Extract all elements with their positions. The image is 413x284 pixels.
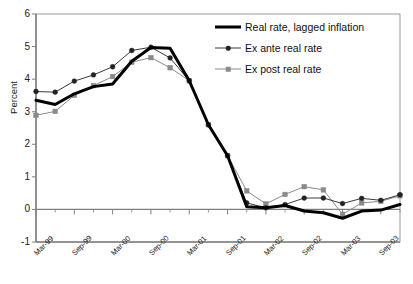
data-point-marker: [110, 74, 115, 79]
data-point-marker: [149, 55, 154, 60]
data-point-marker: [321, 196, 326, 201]
diamond-marker-icon: [226, 46, 231, 51]
data-point-marker: [398, 192, 403, 197]
legend-item-ex-ante[interactable]: Ex ante real rate: [213, 39, 409, 57]
y-axis-tick-label: 3: [6, 107, 30, 117]
legend-label-real-rate: Real rate, lagged inflation: [243, 21, 364, 33]
y-axis-tick-label: 4: [6, 74, 30, 84]
data-point-marker: [244, 189, 249, 194]
legend-label-ex-ante: Ex ante real rate: [243, 42, 322, 54]
data-point-marker: [321, 188, 326, 193]
data-point-marker: [302, 196, 307, 201]
data-point-marker: [168, 65, 173, 70]
data-point-marker: [91, 73, 96, 78]
data-point-marker: [359, 201, 364, 206]
y-axis-tick-label: 6: [6, 9, 30, 19]
data-point-marker: [34, 113, 39, 118]
data-point-marker: [53, 90, 58, 95]
data-point-marker: [302, 184, 307, 189]
legend-label-ex-post: Ex post real rate: [243, 63, 321, 75]
data-point-marker: [340, 212, 345, 217]
y-axis-tick-label: -1: [6, 237, 30, 247]
series-line-ex-post-real-rate: [36, 58, 400, 215]
square-marker-icon: [226, 67, 231, 72]
data-point-marker: [359, 196, 364, 201]
legend-item-ex-post[interactable]: Ex post real rate: [213, 60, 409, 78]
y-axis-tick-label: 2: [6, 139, 30, 149]
legend-item-real-rate[interactable]: Real rate, lagged inflation: [213, 18, 409, 36]
legend-key-line-square: [213, 62, 243, 76]
legend-key-line-diamond: [213, 41, 243, 55]
data-point-marker: [53, 109, 58, 114]
chart-container: Percent 6543210-1 Mar-99Sep-99Mar-00Sep-…: [0, 0, 413, 284]
y-axis-tick-label: 0: [6, 204, 30, 214]
y-axis-title: Percent: [8, 63, 19, 133]
legend-key-thick-line: [213, 20, 243, 34]
y-axis-tick-label: 5: [6, 42, 30, 52]
data-point-marker: [129, 48, 134, 53]
chart-legend: Real rate, lagged inflation Ex ante real…: [213, 18, 409, 81]
data-point-marker: [168, 56, 173, 61]
data-point-marker: [34, 89, 39, 94]
data-point-marker: [72, 79, 77, 84]
y-axis-tick-label: 1: [6, 172, 30, 182]
data-point-marker: [110, 64, 115, 69]
data-point-marker: [283, 192, 288, 197]
data-point-marker: [378, 198, 383, 203]
data-point-marker: [340, 201, 345, 206]
